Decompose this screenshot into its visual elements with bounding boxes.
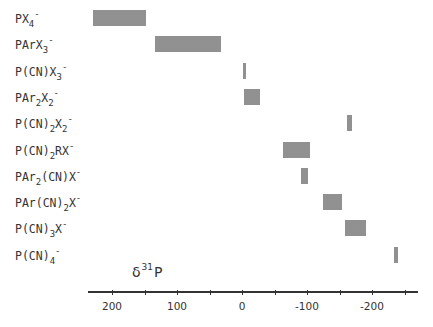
row-label: PAr2X2- <box>15 91 59 105</box>
row-label: PX4- <box>15 12 40 26</box>
x-axis-title-element: P <box>154 264 162 280</box>
x-axis-tick-label: 200 <box>102 300 122 312</box>
range-bar <box>283 142 310 158</box>
x-axis-tick <box>275 290 276 295</box>
row-label: P(CN)X3- <box>15 65 67 79</box>
x-axis-tick <box>405 290 406 295</box>
x-axis-tick <box>372 290 373 295</box>
range-bar <box>301 168 308 184</box>
range-bar <box>244 89 260 105</box>
x-axis-tick <box>210 290 211 295</box>
row-label: PArX3- <box>15 38 54 52</box>
row-label: PAr(CN)2X- <box>15 196 81 210</box>
range-bar <box>394 247 398 263</box>
x-axis-line <box>88 291 418 293</box>
row-label: PAr2(CN)X- <box>15 170 81 184</box>
x-axis-tick <box>242 290 243 295</box>
range-bar <box>155 36 221 52</box>
range-bar <box>345 220 366 236</box>
x-axis-title-symbol: δ <box>132 264 141 280</box>
x-axis-tick-label: -100 <box>295 300 319 312</box>
range-bar <box>243 63 246 79</box>
x-axis-tick <box>145 290 146 295</box>
chemical-shift-range-chart: PX4-PArX3-P(CN)X3-PAr2X2-P(CN)2X2-P(CN)2… <box>0 0 433 327</box>
x-axis-tick <box>177 290 178 295</box>
x-axis-tick-label: -200 <box>360 300 384 312</box>
x-axis-tick-label: 100 <box>167 300 187 312</box>
row-label: P(CN)2RX- <box>15 144 74 158</box>
x-axis-tick <box>340 290 341 295</box>
x-axis-title: δ31P <box>132 264 162 280</box>
x-axis-title-superscript: 31 <box>142 262 153 272</box>
row-label: P(CN)4- <box>15 249 60 263</box>
x-axis-tick <box>112 290 113 295</box>
x-axis-tick <box>307 290 308 295</box>
range-bar <box>347 115 352 131</box>
row-label: P(CN)3X- <box>15 222 67 236</box>
range-bar <box>323 194 342 210</box>
range-bar <box>93 10 146 26</box>
x-axis-tick-label: 0 <box>239 300 246 312</box>
row-label: P(CN)2X2- <box>15 117 73 131</box>
